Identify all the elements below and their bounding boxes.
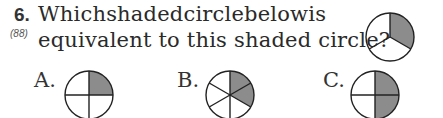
word: below bbox=[244, 2, 308, 26]
option-c-label: C. bbox=[323, 68, 345, 92]
option-a-circle-quarters[interactable] bbox=[63, 69, 115, 118]
word: circle bbox=[183, 2, 244, 26]
option-a-label: A. bbox=[34, 68, 56, 92]
reference-circle-thirds bbox=[364, 11, 416, 63]
word: is bbox=[308, 2, 326, 26]
word: shaded bbox=[106, 2, 183, 26]
option-c-circle-quarters-half[interactable] bbox=[349, 69, 401, 118]
question-text-line-1: Which shaded circle below is bbox=[38, 2, 310, 26]
question-reference: (88) bbox=[10, 28, 28, 39]
word: Which bbox=[38, 2, 106, 26]
option-b-label: B. bbox=[177, 68, 199, 92]
question-text-line-2: equivalent to this shaded circle? bbox=[38, 28, 390, 52]
option-b-circle-sixths[interactable] bbox=[204, 69, 256, 118]
question-number: 6. bbox=[14, 4, 30, 26]
